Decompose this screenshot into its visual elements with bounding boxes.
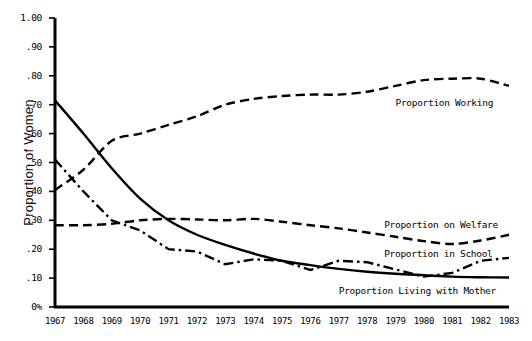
series-label: Proportion Living with Mother [339,285,496,296]
chart-axes [54,18,509,307]
x-tick-label: 1983 [492,316,526,326]
y-tick-label: .70 [8,99,42,110]
y-tick-label: .60 [8,128,42,139]
y-tick-label: .20 [8,243,42,254]
series-label: Proportion on Welfare [384,219,498,230]
chart-container: Proportion of Women 0%.10.20.30.40.50.60… [0,0,532,341]
y-tick-label: .50 [8,157,42,168]
series-label: Proportion in School [384,248,492,259]
series-label: Proportion Working [396,97,494,108]
y-tick-label: 0% [8,301,42,312]
y-tick-label: 1.00 [8,12,42,23]
series-line-0 [55,78,509,190]
y-tick-label: .30 [8,214,42,225]
y-tick-label: .10 [8,272,42,283]
y-tick-label: .40 [8,185,42,196]
y-tick-label: .80 [8,70,42,81]
y-tick-label: .90 [8,41,42,52]
